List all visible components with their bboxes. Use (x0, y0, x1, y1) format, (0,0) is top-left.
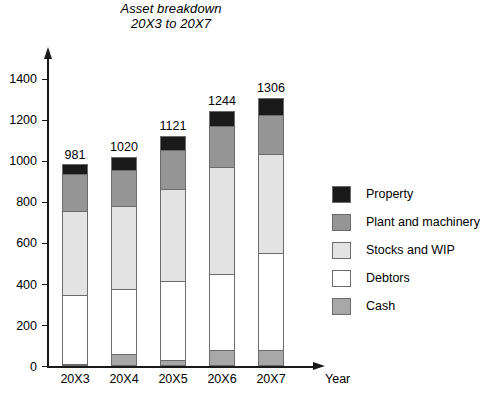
y-axis-line (47, 58, 49, 367)
legend-swatch-icon (332, 242, 351, 259)
bar-20X5[interactable]: 1121 (160, 136, 186, 366)
bar-segment-plant-and-machinery (258, 115, 284, 154)
bar-segment-plant-and-machinery (111, 170, 137, 206)
y-axis-tick: 1000 (42, 161, 47, 162)
legend-item[interactable]: Cash (332, 292, 488, 320)
bar-segment-stocks-and-wip (209, 167, 235, 274)
bar-segment-cash (111, 354, 137, 366)
x-axis-line (47, 366, 315, 368)
legend-item-label: Property (366, 187, 413, 201)
bar-segment-stocks-and-wip (111, 206, 137, 289)
chart-legend: PropertyPlant and machineryStocks and WI… (332, 180, 488, 320)
y-axis-tick: 0 (42, 366, 47, 367)
y-axis-tick-label: 400 (16, 278, 37, 292)
bar-segment-stocks-and-wip (258, 154, 284, 253)
legend-swatch-icon (332, 186, 351, 203)
y-axis-tick: 1400 (42, 79, 47, 80)
legend-item[interactable]: Plant and machinery (332, 208, 488, 236)
legend-item-label: Plant and machinery (366, 215, 480, 229)
y-axis-tick: 800 (42, 202, 47, 203)
y-axis-tick-label: 800 (16, 195, 37, 209)
bar-segment-property (258, 98, 284, 115)
bar-segment-property (160, 136, 186, 150)
bar-segment-stocks-and-wip (62, 211, 88, 295)
bar-segment-debtors (111, 289, 137, 354)
x-axis-tick-label: 20X3 (60, 372, 89, 386)
bar-segment-property (111, 157, 137, 170)
bar-total-label: 1306 (257, 81, 285, 95)
y-axis-tick-label: 1200 (9, 113, 37, 127)
bar-segment-cash (160, 360, 186, 366)
bar-total-label: 1020 (110, 140, 138, 154)
bar-total-label: 1244 (208, 94, 236, 108)
chart-title-line-1: Asset breakdown (96, 1, 246, 16)
bar-segment-debtors (209, 274, 235, 350)
bar-total-label: 1121 (160, 119, 187, 133)
legend-item-label: Cash (366, 299, 395, 313)
bar-segment-cash (258, 350, 284, 366)
bar-segment-debtors (258, 253, 284, 351)
bar-segment-plant-and-machinery (209, 126, 235, 167)
y-axis-tick-label: 200 (16, 319, 37, 333)
stacked-bar-chart: Asset breakdown 20X3 to 20X7 02004006008… (0, 0, 490, 401)
chart-title-line-2: 20X3 to 20X7 (96, 16, 246, 31)
bar-segment-debtors (160, 281, 186, 360)
x-axis-tick-label: 20X7 (256, 372, 285, 386)
bar-20X3[interactable]: 981 (62, 164, 88, 366)
legend-swatch-icon (332, 270, 351, 287)
y-axis-tick: 600 (42, 243, 47, 244)
bar-20X6[interactable]: 1244 (209, 111, 235, 366)
bar-segment-cash (62, 364, 88, 366)
x-axis-tick-label: 20X4 (109, 372, 138, 386)
x-axis-tick-label: 20X6 (207, 372, 236, 386)
legend-item-label: Stocks and WIP (366, 243, 455, 257)
legend-item-label: Debtors (366, 271, 410, 285)
legend-swatch-icon (332, 214, 351, 231)
x-axis-arrow-icon (313, 362, 325, 370)
legend-item[interactable]: Debtors (332, 264, 488, 292)
bar-20X7[interactable]: 1306 (258, 98, 284, 366)
plot-area: 0200400600800100012001400 98110201121124… (47, 47, 322, 367)
y-axis-tick-label: 0 (30, 360, 37, 374)
y-axis-tick-label: 600 (16, 236, 37, 250)
y-axis-tick-label: 1000 (9, 154, 37, 168)
bar-segment-stocks-and-wip (160, 189, 186, 281)
bar-segment-property (209, 111, 235, 126)
y-axis-tick: 200 (42, 325, 47, 326)
legend-item[interactable]: Stocks and WIP (332, 236, 488, 264)
y-axis-tick-label: 1400 (9, 72, 37, 86)
y-axis-tick: 1200 (42, 120, 47, 121)
legend-item[interactable]: Property (332, 180, 488, 208)
x-axis-title: Year (325, 372, 350, 386)
y-axis-tick: 400 (42, 284, 47, 285)
bar-total-label: 981 (65, 148, 86, 162)
legend-swatch-icon (332, 298, 351, 315)
x-axis-tick-label: 20X5 (158, 372, 187, 386)
bar-segment-plant-and-machinery (62, 174, 88, 211)
bar-segment-debtors (62, 295, 88, 364)
chart-title: Asset breakdown 20X3 to 20X7 (96, 1, 246, 31)
bar-segment-plant-and-machinery (160, 150, 186, 189)
bar-20X4[interactable]: 1020 (111, 157, 137, 366)
bar-segment-property (62, 164, 88, 174)
bar-segment-cash (209, 350, 235, 366)
